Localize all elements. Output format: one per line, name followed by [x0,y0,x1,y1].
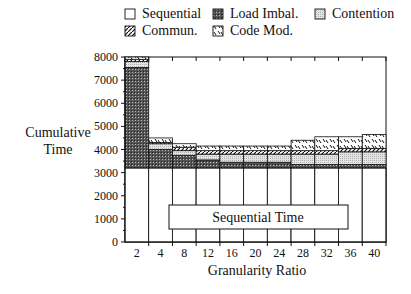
bar-segment [291,165,315,168]
legend-label: Sequential [142,6,201,21]
bar-segment [220,151,244,154]
bar-segment [315,151,339,154]
bar-segment [196,146,220,151]
y-tick-label: 6000 [94,96,118,110]
bar-segment [339,137,363,149]
legend-label: Commun. [142,23,198,38]
x-tick-label: 12 [202,246,214,260]
bar-segment [291,151,315,154]
svg-text:Sequential Time: Sequential Time [212,210,303,225]
bar-segment [267,151,291,154]
chart-legend: SequentialLoad Imbal.ContentionCommun.Co… [125,6,394,38]
bar-segment [125,62,149,68]
bar-segment [172,144,196,147]
legend-label: Code Mod. [230,23,293,38]
legend-swatch [125,26,135,36]
bar-segment [149,138,173,143]
legend-label: Contention [332,6,394,21]
bar-segment [362,165,386,168]
legend-item: Contention [315,6,394,21]
x-tick-label: 20 [250,246,262,260]
x-tick-label: 28 [297,246,309,260]
legend-swatch [125,9,135,19]
bar-segment [244,154,268,162]
bar-segment [315,137,339,151]
plot-area: Sequential Time [125,57,386,242]
bar-segment [220,162,244,168]
legend-item: Code Mod. [213,23,293,38]
bar-segment [267,154,291,162]
legend-item: Load Imbal. [213,6,298,21]
bar-segment [244,162,268,168]
bar-segment [172,151,196,156]
bar-group [125,57,149,242]
bar-segment [125,67,149,168]
y-tick-label: 2000 [94,189,118,203]
bar-segment [267,146,291,151]
chart-canvas: SequentialLoad Imbal.ContentionCommun.Co… [0,0,411,294]
y-tick-label: 7000 [94,73,118,87]
bar-segment [196,160,220,168]
y-tick-label: 0 [112,235,118,249]
x-tick-label: 32 [321,246,333,260]
y-tick-label: 1000 [94,212,118,226]
bar-segment [125,57,149,59]
x-tick-label: 40 [368,246,380,260]
bar-segment [362,152,386,165]
legend-swatch [315,9,325,19]
bar-segment [196,151,220,154]
bar-segment [172,155,196,168]
x-tick-label: 2 [134,246,140,260]
bar-segment [362,134,386,148]
bar-segment [339,165,363,168]
y-tick-label: 4000 [94,143,118,157]
y-tick-label: 3000 [94,166,118,180]
bar-segment [362,148,386,151]
x-tick-label: 36 [344,246,356,260]
bar-segment [220,154,244,162]
bar-segment [196,154,220,160]
bar-group [362,134,386,242]
y-tick-label: 8000 [94,50,118,64]
bar-segment [291,140,315,150]
bar-segment [244,146,268,151]
bar-segment [149,150,173,169]
bar-segment [291,154,315,164]
bar-segment [315,154,339,164]
bar-segment [339,148,363,151]
legend-swatch [213,26,223,36]
x-tick-label: 24 [273,246,285,260]
legend-swatch [213,9,223,19]
x-tick-label: 8 [181,246,187,260]
sequential-time-annotation: Sequential Time [169,205,348,229]
bar-segment [125,168,149,242]
bar-segment [339,152,363,165]
bar-segment [149,144,173,150]
bar-segment [267,162,291,168]
x-tick-label: 16 [226,246,238,260]
y-tick-label: 5000 [94,119,118,133]
bar-segment [315,165,339,168]
legend-item: Commun. [125,23,198,38]
y-axis-label: Cumulative [25,125,90,140]
legend-item: Sequential [125,6,201,21]
legend-label: Load Imbal. [230,6,298,21]
bar-segment [172,147,196,150]
x-tick-label: 4 [158,246,164,260]
y-axis-label: Time [43,142,72,157]
bar-segment [244,151,268,154]
x-axis-label: Granularity Ratio [208,263,306,278]
bar-segment [362,168,386,242]
bar-segment [220,146,244,151]
